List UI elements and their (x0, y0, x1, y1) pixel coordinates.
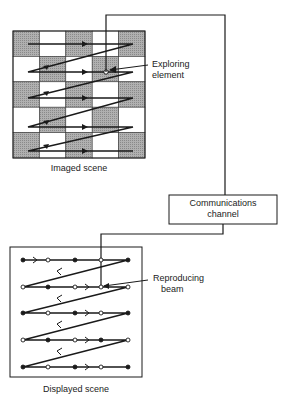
grid-cell-dark (13, 82, 39, 107)
reproducing-pointer-arrowhead (103, 283, 109, 289)
reproducing-beam-pointer (104, 280, 148, 286)
grid-cell-dark (119, 133, 145, 158)
reproducing-label-line2: beam (153, 284, 223, 295)
raster-dot-filled (21, 311, 25, 315)
grid-cell-light (13, 56, 39, 81)
channel-label-line2: channel (169, 209, 277, 220)
raster-dot-open (73, 338, 77, 342)
raster-dot-open (126, 338, 130, 342)
raster-dot-filled (126, 311, 130, 315)
raster-dot-open (99, 365, 103, 369)
raster-dot-open (46, 258, 50, 262)
displayed-scene-caption: Displayed scene (10, 384, 142, 395)
raster-dot-filled (73, 311, 77, 315)
raster-dot-open (46, 311, 50, 315)
raster-dot-open (99, 311, 103, 315)
channel-label-line1: Communications (169, 198, 277, 209)
communications-channel-label: Communications channel (169, 198, 277, 220)
raster-dot-open (126, 285, 130, 289)
raster-dot-open (73, 285, 77, 289)
raster-dot-open (21, 338, 25, 342)
raster-dot-open (99, 258, 103, 262)
grid-cell-dark (39, 56, 65, 81)
reproducing-label-line1: Reproducing (153, 273, 223, 284)
raster-dot-filled (99, 338, 103, 342)
raster-dot-open (99, 285, 103, 289)
raster-dot-filled (126, 258, 130, 262)
grid-cell-light (13, 107, 39, 132)
exploring-element-text: Exploring element (152, 59, 190, 80)
grid-cell-light (92, 133, 118, 158)
exploring-element-label: Exploring element (152, 59, 212, 81)
grid-cell-dark (119, 82, 145, 107)
raster-dot-open (21, 285, 25, 289)
grid-cell-light (119, 56, 145, 81)
raster-dot-filled (46, 338, 50, 342)
raster-dot-filled (21, 258, 25, 262)
raster-dot-filled (73, 258, 77, 262)
imaged-scene-caption: Imaged scene (13, 163, 145, 174)
reproducing-beam-label: Reproducing beam (153, 273, 223, 295)
grid-cell-dark (13, 133, 39, 158)
raster-dot-open (46, 365, 50, 369)
grid-cell-dark (66, 133, 92, 158)
raster-dot-filled (126, 365, 130, 369)
grid-cell-dark (92, 107, 118, 132)
raster-dot-filled (73, 365, 77, 369)
raster-dot-filled (46, 285, 50, 289)
raster-dot-filled (21, 365, 25, 369)
